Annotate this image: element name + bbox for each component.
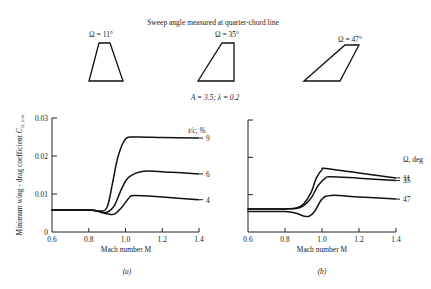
planform-params: A = 3.5; λ = 0.2 bbox=[190, 93, 240, 102]
x-tick-label: 1.2 bbox=[354, 235, 364, 244]
chart-panel-a: 0.60.81.01.21.400.010.020.03 964 t/c, % … bbox=[15, 114, 210, 276]
x-tick-label: 0.6 bbox=[243, 235, 253, 244]
x-tick-label: 1.2 bbox=[158, 235, 168, 244]
x-tick-label: 1.0 bbox=[121, 235, 131, 244]
x-tick-label: 1.4 bbox=[194, 235, 204, 244]
series-line-b-47 bbox=[248, 195, 396, 216]
series-line-a-9 bbox=[52, 137, 199, 211]
x-axis-label-a: Mach number M bbox=[101, 245, 152, 254]
series-line-a-4 bbox=[52, 195, 199, 214]
x-tick-label: 1.0 bbox=[317, 235, 327, 244]
series-line-a-6 bbox=[52, 171, 199, 213]
y-axis-label-text: Minimum wing - drag coefficient bbox=[15, 133, 24, 235]
series-label-b-35: 35 bbox=[403, 176, 411, 185]
y-tick-label: 0.02 bbox=[35, 152, 48, 161]
series-label-a-9: 9 bbox=[206, 134, 210, 143]
planform-shape-1 bbox=[89, 43, 123, 81]
axes-b bbox=[248, 120, 396, 232]
series-line-b-35 bbox=[248, 177, 396, 209]
y-axis-subscript: D, min bbox=[20, 114, 26, 129]
y-tick-label: 0.03 bbox=[35, 114, 48, 123]
x-tick-label: 0.6 bbox=[47, 235, 57, 244]
x-tick-label: 0.8 bbox=[280, 235, 290, 244]
legend-title-b: Ω, deg bbox=[403, 155, 423, 164]
x-tick-label: 0.8 bbox=[84, 235, 94, 244]
x-tick-label: 1.4 bbox=[391, 235, 401, 244]
series-line-b-11 bbox=[248, 168, 396, 209]
chart-panel-b: 0.60.81.01.21.4 113547 Ω, deg Mach numbe… bbox=[243, 120, 423, 276]
y-tick-label: 0.01 bbox=[35, 190, 48, 199]
panel-label-b: (b) bbox=[318, 267, 327, 276]
planform-shape-3 bbox=[304, 45, 359, 81]
series-label-a-4: 4 bbox=[206, 196, 210, 205]
x-axis-label-b: Mach number M bbox=[297, 245, 348, 254]
series-label-b-47: 47 bbox=[403, 195, 411, 204]
figure-header: Sweep angle measured at quarter-chord li… bbox=[147, 18, 279, 27]
legend-title-a: t/c, % bbox=[188, 126, 206, 135]
planform-label-1: Ω = 11° bbox=[89, 30, 113, 39]
planform-label-2: Ω = 35° bbox=[215, 30, 239, 39]
planform-label-3: Ω = 47° bbox=[338, 35, 362, 44]
y-axis-label-a: Minimum wing - drag coefficient CD, min bbox=[15, 114, 26, 235]
panel-label-a: (a) bbox=[123, 267, 132, 276]
series-label-a-6: 6 bbox=[206, 170, 210, 179]
planform-shape-2 bbox=[198, 43, 234, 81]
y-tick-label: 0 bbox=[44, 228, 48, 237]
axes-a bbox=[52, 118, 199, 232]
figure: Sweep angle measured at quarter-chord li… bbox=[0, 0, 431, 289]
